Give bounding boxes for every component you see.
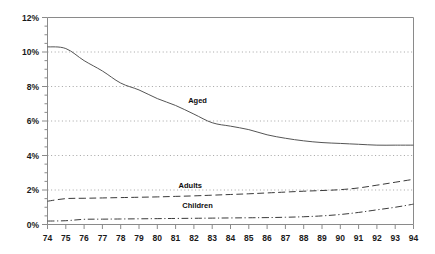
x-tick-label-74: 74 [43, 233, 53, 243]
series-label-children: Children [182, 201, 213, 210]
x-tick-label-81: 81 [171, 233, 181, 243]
x-tick-label-77: 77 [98, 233, 108, 243]
x-tick-label-86: 86 [262, 233, 272, 243]
x-tick-label-88: 88 [299, 233, 309, 243]
x-tick-label-85: 85 [244, 233, 254, 243]
x-tick-label-83: 83 [207, 233, 217, 243]
series-label-adults: Adults [179, 181, 202, 190]
x-tick-label-93: 93 [390, 233, 400, 243]
x-axis-ticks [48, 225, 414, 230]
y-tick-label-0%: 0% [27, 220, 40, 230]
y-tick-label-6%: 6% [27, 116, 40, 126]
x-tick-label-80: 80 [153, 233, 163, 243]
chart-container: 0%2%4%6%8%10%12% 74757677787980818283848… [0, 0, 435, 254]
x-tick-label-92: 92 [372, 233, 382, 243]
chart-background [0, 0, 435, 254]
series-label-aged: Aged [188, 96, 207, 105]
y-tick-label-10%: 10% [22, 47, 39, 57]
y-tick-label-12%: 12% [22, 13, 39, 23]
x-tick-label-94: 94 [409, 233, 419, 243]
x-tick-label-79: 79 [134, 233, 144, 243]
y-tick-label-2%: 2% [27, 185, 40, 195]
x-tick-label-78: 78 [116, 233, 126, 243]
x-axis-tick-labels: 7475767778798081828384858687888990919293… [43, 233, 419, 243]
x-tick-label-76: 76 [79, 233, 89, 243]
x-tick-label-89: 89 [317, 233, 327, 243]
x-tick-label-84: 84 [226, 233, 236, 243]
x-tick-label-75: 75 [61, 233, 71, 243]
x-tick-label-91: 91 [354, 233, 364, 243]
y-tick-label-4%: 4% [27, 151, 40, 161]
line-chart: 0%2%4%6%8%10%12% 74757677787980818283848… [0, 0, 435, 254]
x-tick-label-87: 87 [281, 233, 291, 243]
x-tick-label-90: 90 [336, 233, 346, 243]
x-tick-label-82: 82 [189, 233, 199, 243]
y-tick-label-8%: 8% [27, 82, 40, 92]
